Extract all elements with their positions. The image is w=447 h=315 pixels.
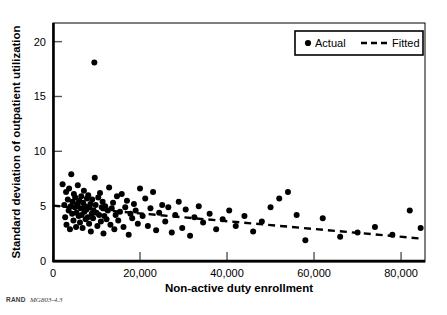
figure-container: 05101520 020,00040,00060,00080,000 Stand… bbox=[0, 0, 447, 315]
scatter-point bbox=[135, 221, 141, 227]
scatter-point bbox=[104, 216, 110, 222]
scatter-point bbox=[142, 195, 148, 201]
scatter-point bbox=[78, 193, 84, 199]
scatter-point bbox=[259, 219, 265, 225]
scatter-point bbox=[93, 202, 99, 208]
y-tick-label: 5 bbox=[40, 200, 46, 212]
y-tick-label: 0 bbox=[40, 255, 46, 267]
scatter-point bbox=[98, 219, 104, 225]
scatter-point bbox=[131, 201, 137, 207]
scatter-point bbox=[86, 221, 92, 227]
scatter-point bbox=[162, 219, 168, 225]
legend-label-actual: Actual bbox=[315, 37, 346, 49]
scatter-point bbox=[213, 226, 219, 232]
scatter-point bbox=[372, 224, 378, 230]
x-tick-label: 20,000 bbox=[123, 267, 157, 279]
scatter-point bbox=[159, 202, 165, 208]
scatter-point bbox=[62, 214, 68, 220]
scatter-point bbox=[109, 205, 115, 211]
scatter-point bbox=[200, 220, 206, 226]
scatter-point bbox=[169, 229, 175, 235]
legend-marker-actual-icon bbox=[305, 40, 311, 46]
scatter-point bbox=[140, 213, 146, 219]
scatter-point bbox=[355, 229, 361, 235]
scatter-point bbox=[389, 232, 395, 238]
x-tick-label: 0 bbox=[50, 267, 56, 279]
chart-legend: Actual Fitted bbox=[295, 31, 423, 55]
scatter-point bbox=[172, 212, 178, 218]
x-axis-tick-labels: 020,00040,00060,00080,000 bbox=[50, 267, 418, 279]
scatter-point bbox=[97, 190, 103, 196]
scatter-point bbox=[110, 200, 116, 206]
scatter-point bbox=[226, 208, 232, 214]
scatter-point bbox=[337, 234, 343, 240]
y-tick-label: 15 bbox=[34, 90, 46, 102]
y-axis-title: Standard deviation of outpatient utiliza… bbox=[10, 25, 22, 258]
scatter-point bbox=[61, 202, 67, 208]
scatter-point bbox=[196, 203, 202, 209]
scatter-point bbox=[111, 226, 117, 232]
scatter-point bbox=[153, 227, 159, 233]
scatter-point bbox=[91, 59, 97, 65]
scatter-point bbox=[120, 224, 126, 230]
scatter-point bbox=[133, 208, 139, 214]
scatter-point bbox=[207, 211, 213, 217]
source-note-id: MG803-4.3 bbox=[29, 296, 63, 304]
scatter-point bbox=[81, 188, 87, 194]
scatter-point bbox=[75, 182, 81, 188]
scatter-point bbox=[285, 189, 291, 195]
scatter-point bbox=[268, 204, 274, 210]
scatter-point bbox=[147, 205, 153, 211]
x-tick-label: 60,000 bbox=[297, 267, 331, 279]
scatter-point bbox=[179, 225, 185, 231]
scatter-point bbox=[276, 195, 282, 201]
source-note-rand: RAND bbox=[6, 296, 26, 303]
scatter-point bbox=[191, 214, 197, 220]
scatter-point bbox=[66, 186, 72, 192]
scatter-point bbox=[320, 215, 326, 221]
scatter-point bbox=[70, 217, 76, 223]
scatter-point bbox=[294, 212, 300, 218]
scatter-point bbox=[100, 231, 106, 237]
scatter-point bbox=[77, 220, 83, 226]
scatter-point bbox=[119, 191, 125, 197]
scatter-point bbox=[220, 216, 226, 222]
scatter-point bbox=[117, 209, 123, 215]
scatter-point bbox=[150, 189, 156, 195]
scatter-point bbox=[88, 228, 94, 234]
scatter-point bbox=[89, 197, 95, 203]
scatter-point bbox=[233, 223, 239, 229]
scatter-point bbox=[183, 206, 189, 212]
scatter-point bbox=[418, 225, 424, 231]
scatter-point bbox=[90, 215, 96, 221]
scatter-point bbox=[92, 175, 98, 181]
y-axis-tick-labels: 05101520 bbox=[34, 36, 46, 267]
scatter-point bbox=[302, 237, 308, 243]
scatter-point bbox=[165, 204, 171, 210]
scatter-point bbox=[176, 199, 182, 205]
x-tick-label: 80,000 bbox=[384, 267, 418, 279]
scatter-point bbox=[106, 185, 112, 191]
scatter-point bbox=[80, 225, 86, 231]
scatter-point bbox=[60, 181, 66, 187]
scatter-point bbox=[126, 232, 132, 238]
scatter-point bbox=[115, 217, 121, 223]
scatter-point bbox=[137, 186, 143, 192]
scatter-chart: 05101520 020,00040,00060,00080,000 Stand… bbox=[0, 0, 447, 315]
scatter-point bbox=[187, 233, 193, 239]
scatter-point bbox=[407, 208, 413, 214]
scatter-point bbox=[129, 215, 135, 221]
legend-label-fitted: Fitted bbox=[392, 37, 420, 49]
scatter-point bbox=[241, 213, 247, 219]
scatter-point bbox=[124, 198, 130, 204]
scatter-point bbox=[145, 223, 151, 229]
y-tick-label: 20 bbox=[34, 36, 46, 48]
scatter-point bbox=[67, 226, 73, 232]
scatter-point bbox=[96, 212, 102, 218]
scatter-point bbox=[250, 228, 256, 234]
scatter-point bbox=[156, 210, 162, 216]
x-axis-title: Non-active duty enrollment bbox=[165, 282, 313, 294]
scatter-point bbox=[122, 204, 128, 210]
x-tick-label: 40,000 bbox=[210, 267, 244, 279]
y-tick-label: 10 bbox=[34, 145, 46, 157]
